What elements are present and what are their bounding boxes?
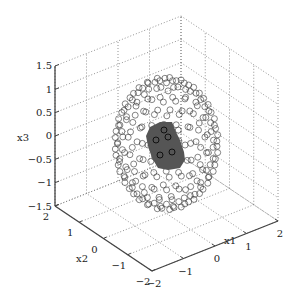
data-point (178, 204, 184, 210)
data-point (187, 124, 193, 130)
data-point (137, 156, 143, 162)
data-point (131, 161, 137, 167)
data-point (154, 86, 160, 92)
data-point (129, 144, 135, 150)
data-point (204, 132, 210, 138)
data-point (127, 152, 133, 158)
data-point (140, 173, 146, 179)
data-point (158, 84, 164, 90)
x3-tick-label: 1 (46, 84, 52, 95)
data-point (136, 197, 142, 203)
x2-tick (79, 221, 82, 223)
data-point (182, 142, 188, 148)
data-point (193, 90, 199, 96)
x3-axis-label: x3 (17, 132, 29, 143)
chart-3d-scatter: x1 x2 x3 −1.5−1−0.500.511.5−2−1012−2−101… (0, 0, 303, 298)
data-point (198, 180, 204, 186)
data-point (117, 122, 123, 128)
data-point (196, 127, 202, 133)
data-point (173, 98, 179, 104)
data-point (179, 108, 185, 114)
data-point (116, 122, 122, 128)
grid-line-floor-x2 (104, 189, 230, 239)
data-point (186, 173, 192, 179)
data-point (210, 144, 216, 150)
x1-tick-label: 1 (245, 241, 251, 252)
data-point (176, 199, 182, 205)
data-point (200, 167, 206, 173)
data-point (211, 116, 217, 122)
data-point (151, 112, 157, 118)
data-point (215, 150, 221, 156)
x2-tick (152, 270, 155, 272)
data-point (215, 132, 221, 138)
data-point (208, 109, 214, 115)
x2-tick (104, 237, 107, 239)
x1-axis-label: x1 (224, 235, 236, 246)
grid-line-wall-z-b (181, 86, 278, 151)
data-point (151, 170, 157, 176)
data-point (119, 129, 125, 135)
grid-line-wall-z-a (55, 16, 181, 66)
x1-tick (212, 244, 215, 246)
data-point (131, 90, 137, 96)
data-point (195, 154, 201, 160)
x3-tick-label: 0 (46, 130, 52, 141)
data-point (213, 126, 219, 132)
data-point (154, 174, 160, 180)
data-point (140, 85, 146, 91)
x2-tick-label: −1 (111, 260, 126, 271)
data-point (205, 180, 211, 186)
data-point (164, 113, 170, 119)
data-point (130, 119, 136, 125)
x1-tick (244, 232, 247, 234)
data-point (112, 135, 118, 141)
data-point (149, 97, 155, 103)
x3-tick-label: 0.5 (36, 107, 52, 118)
data-point (133, 178, 139, 184)
data-point (196, 90, 202, 96)
x3-tick (55, 64, 59, 66)
data-point (198, 144, 204, 150)
x2-tick-label: 1 (67, 227, 73, 238)
data-point (210, 168, 216, 174)
x2-tick-label: 2 (43, 211, 49, 222)
data-point (129, 180, 135, 186)
x3-tick-label: −1 (37, 177, 52, 188)
data-point (113, 128, 119, 134)
x2-tick-label: −2 (136, 276, 151, 287)
data-point (142, 172, 148, 178)
data-point (125, 134, 131, 140)
data-point (139, 184, 145, 190)
data-point (167, 107, 173, 113)
x3-tick-label: −1.5 (28, 201, 52, 212)
data-point (194, 178, 200, 184)
data-point (141, 92, 147, 98)
data-point (206, 108, 212, 114)
data-point (207, 162, 213, 168)
data-point (134, 139, 140, 145)
data-point (140, 157, 146, 163)
data-point (165, 88, 171, 94)
x3-tick-label: 1.5 (36, 60, 52, 71)
x1-tick-label: 2 (277, 228, 283, 239)
x1-tick-label: −1 (178, 266, 193, 277)
data-point (141, 108, 147, 114)
data-point (188, 140, 194, 146)
data-point (160, 99, 166, 105)
x1-tick (181, 257, 184, 259)
grid-line-floor-x2 (128, 205, 254, 255)
data-point (188, 184, 194, 190)
data-point (155, 107, 161, 113)
data-point (194, 103, 200, 109)
data-point (176, 186, 182, 192)
data-point (116, 116, 122, 122)
data-point (131, 191, 137, 197)
x2-tick (128, 253, 131, 255)
highlighted-region (146, 122, 185, 170)
data-point (146, 86, 152, 92)
data-point (151, 200, 157, 206)
x2-tick-label: 0 (91, 244, 97, 255)
x1-tick (275, 219, 278, 221)
data-point (132, 112, 138, 118)
